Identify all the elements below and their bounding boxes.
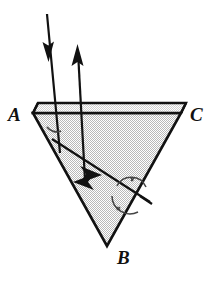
vertex-label-a: A [8, 105, 21, 124]
exit-ray-stub [140, 196, 152, 204]
prism-diagram-svg [0, 0, 216, 286]
prism-body [33, 103, 186, 246]
prism-front-face [33, 113, 181, 246]
prism-ray-diagram: A C B [0, 0, 216, 286]
vertex-label-b: B [117, 248, 130, 267]
vertex-label-c: C [190, 105, 203, 124]
